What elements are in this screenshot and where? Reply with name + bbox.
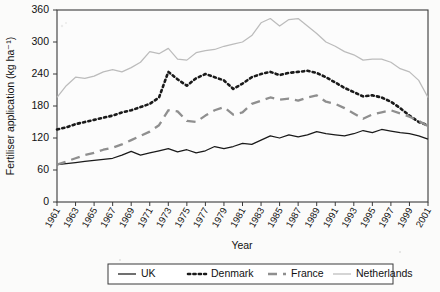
x-tick-label-1981: 1981	[228, 206, 248, 230]
y-tick-label-180: 180	[31, 99, 49, 111]
y-tick-label-360: 360	[31, 3, 49, 15]
x-tick-label-1997: 1997	[376, 206, 396, 230]
x-tick-label-1991: 1991	[320, 206, 340, 230]
y-tick-label-240: 240	[31, 67, 49, 79]
x-tick-label-1989: 1989	[302, 206, 322, 230]
legend-label-uk: UK	[141, 267, 156, 279]
x-tick-label-1969: 1969	[116, 206, 136, 230]
y-tick-label-0: 0	[43, 195, 49, 207]
x-tick-label-1983: 1983	[246, 206, 266, 230]
fertiliser-application-line-chart: Fertiliser application (kg ha⁻¹) 0601201…	[0, 0, 440, 292]
x-tick-label-1965: 1965	[79, 206, 99, 230]
y-tick-label-120: 120	[31, 131, 49, 143]
chart-figure: Fertiliser application (kg ha⁻¹) 0601201…	[0, 0, 440, 292]
y-axis-title: Fertiliser application (kg ha⁻¹)	[4, 37, 16, 175]
x-tick-label-1961: 1961	[42, 206, 62, 230]
x-tick-label-1963: 1963	[61, 206, 81, 230]
y-axis: 060120180240300360	[31, 3, 57, 207]
plot-frame	[57, 10, 428, 202]
legend-label-france: France	[291, 267, 324, 279]
chart-legend: UKDenmarkFranceNetherlands	[108, 264, 413, 284]
x-tick-label-1975: 1975	[172, 206, 192, 230]
x-tick-label-1999: 1999	[395, 206, 415, 230]
x-tick-label-1967: 1967	[98, 206, 118, 230]
x-tick-label-1987: 1987	[283, 206, 303, 230]
x-tick-label-1979: 1979	[209, 206, 229, 230]
legend-label-denmark: Denmark	[211, 267, 254, 279]
y-tick-label-60: 60	[37, 163, 49, 175]
x-axis: 1961196319651967196919711973197519771979…	[42, 202, 433, 229]
x-tick-label-1993: 1993	[339, 206, 359, 230]
x-tick-label-2001: 2001	[413, 206, 433, 230]
x-tick-label-1971: 1971	[135, 206, 155, 230]
x-tick-label-1995: 1995	[357, 206, 377, 230]
x-tick-label-1977: 1977	[191, 206, 211, 230]
x-tick-label-1973: 1973	[153, 206, 173, 230]
legend-label-netherlands: Netherlands	[356, 267, 413, 279]
x-axis-title: Year	[231, 239, 253, 251]
x-tick-label-1985: 1985	[265, 206, 285, 230]
y-tick-label-300: 300	[31, 35, 49, 47]
